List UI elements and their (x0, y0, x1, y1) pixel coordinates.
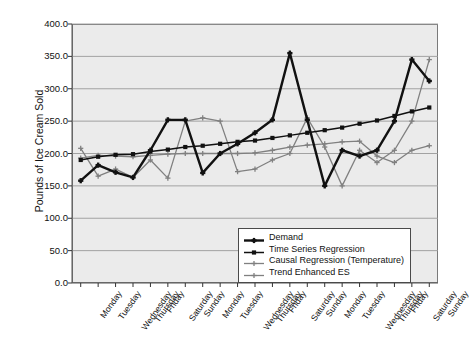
legend-item: Demand (243, 232, 404, 244)
data-point (340, 126, 344, 130)
legend-item: Causal Regression (Temperature) (243, 255, 404, 267)
legend-label: Causal Regression (Temperature) (269, 255, 404, 266)
series-trend-enhanced-es (78, 57, 432, 188)
data-point (218, 142, 222, 146)
legend-item: Trend Enhanced ES (243, 267, 404, 279)
data-point (288, 133, 292, 137)
data-point (357, 122, 361, 126)
legend-item: Time Series Regression (243, 244, 404, 256)
legend-swatch (243, 244, 265, 255)
legend-label: Time Series Regression (269, 244, 365, 255)
data-point (113, 153, 117, 157)
data-point (201, 144, 205, 148)
data-point (270, 136, 274, 140)
legend-swatch (243, 232, 265, 243)
data-point (96, 155, 100, 159)
data-point (183, 145, 187, 149)
data-point (166, 148, 170, 152)
legend-swatch (243, 255, 265, 266)
data-point (410, 109, 414, 113)
chart-legend: DemandTime Series RegressionCausal Regre… (238, 228, 411, 283)
data-point (79, 158, 83, 162)
data-point (323, 128, 327, 132)
data-point (427, 105, 431, 109)
legend-label: Trend Enhanced ES (269, 267, 350, 278)
legend-label: Demand (269, 232, 303, 243)
data-point (131, 152, 135, 156)
data-point (305, 131, 309, 135)
legend-swatch (243, 267, 265, 278)
data-point (375, 118, 379, 122)
data-point (252, 250, 256, 254)
legend-key-icon (243, 270, 265, 281)
data-point (253, 138, 257, 142)
